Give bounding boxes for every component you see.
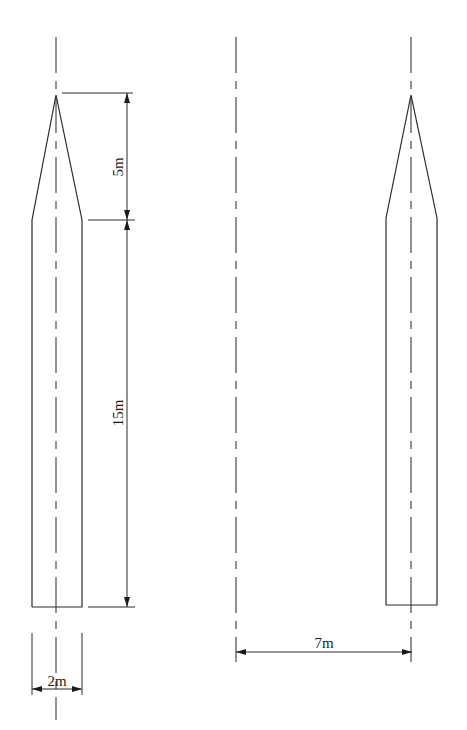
left-pile-outline: [32, 95, 82, 607]
dimension-label-5m: 5m: [110, 157, 126, 177]
spacing-dimension: 7m: [236, 635, 412, 652]
drawing-svg: 5m 15m 2m 7m: [0, 0, 467, 730]
vertical-dimensions: 5m 15m: [62, 93, 135, 607]
drawing-canvas: 5m 15m 2m 7m: [0, 0, 467, 730]
dimension-label-15m: 15m: [110, 399, 126, 426]
left-pile-shape: [32, 37, 82, 720]
width-dimension: 2m: [32, 633, 82, 695]
dimension-label-7m: 7m: [314, 635, 334, 651]
right-pile-shape: [386, 37, 437, 662]
dimension-label-2m: 2m: [47, 673, 67, 689]
